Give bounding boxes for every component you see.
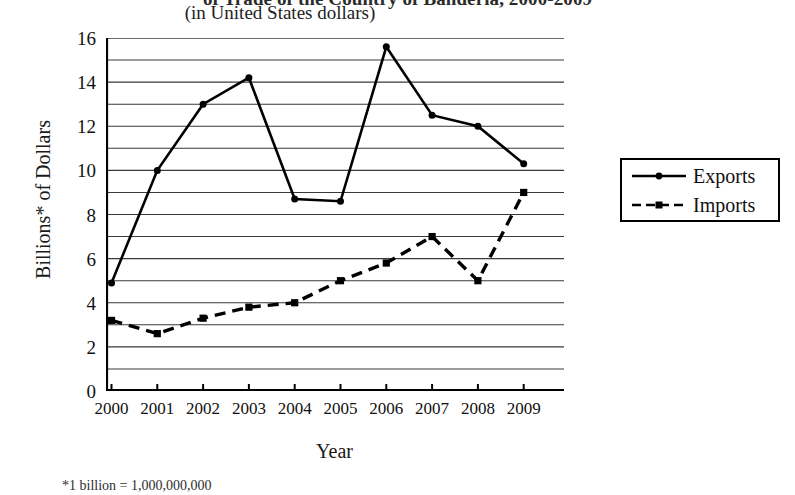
data-point-imports bbox=[474, 277, 481, 284]
data-point-exports bbox=[200, 101, 207, 108]
plot-svg bbox=[106, 38, 564, 391]
y-tick-label: 2 bbox=[62, 338, 96, 357]
data-point-exports bbox=[154, 167, 161, 174]
data-point-imports bbox=[428, 233, 435, 240]
data-point-exports bbox=[383, 43, 390, 50]
data-point-exports bbox=[291, 196, 298, 203]
data-point-exports bbox=[108, 279, 115, 286]
chart-footnote: *1 billion = 1,000,000,000 bbox=[62, 478, 211, 494]
data-point-exports bbox=[520, 160, 527, 167]
data-point-imports bbox=[245, 304, 252, 311]
legend-label-imports: Imports bbox=[693, 194, 755, 217]
series-line-imports bbox=[112, 192, 524, 333]
legend-sample-solid-line-icon bbox=[630, 166, 688, 186]
data-point-imports bbox=[108, 317, 115, 324]
x-tick-label: 2009 bbox=[494, 400, 554, 417]
y-tick-label: 10 bbox=[62, 161, 96, 180]
data-point-imports bbox=[383, 259, 390, 266]
chart-subtitle: (in United States dollars) bbox=[0, 2, 560, 24]
legend-label-exports: Exports bbox=[693, 165, 755, 188]
legend-item-exports: Exports bbox=[622, 161, 778, 191]
data-point-exports bbox=[474, 123, 481, 130]
data-point-imports bbox=[520, 189, 527, 196]
data-point-imports bbox=[291, 299, 298, 306]
legend-item-imports: Imports bbox=[622, 190, 778, 220]
data-point-imports bbox=[337, 277, 344, 284]
y-tick-label: 6 bbox=[62, 250, 96, 269]
y-tick-label: 14 bbox=[62, 73, 96, 92]
y-tick-label: 8 bbox=[62, 206, 96, 225]
y-tick-label: 4 bbox=[62, 294, 96, 313]
data-point-exports bbox=[245, 74, 252, 81]
data-point-exports bbox=[429, 112, 436, 119]
y-axis-title: Billions* of Dollars bbox=[32, 75, 55, 325]
y-tick-label: 16 bbox=[62, 29, 96, 48]
y-tick-label: 0 bbox=[62, 382, 96, 401]
data-point-imports bbox=[154, 330, 161, 337]
trade-line-chart-figure: of Trade of the Country of Banderia, 200… bbox=[0, 0, 795, 495]
chart-legend: Exports Imports bbox=[620, 158, 780, 222]
data-point-exports bbox=[337, 198, 344, 205]
x-axis-title: Year bbox=[88, 440, 581, 463]
data-point-imports bbox=[199, 315, 206, 322]
y-tick-label: 12 bbox=[62, 117, 96, 136]
plot-area bbox=[106, 38, 564, 391]
legend-sample-dashed-line-icon bbox=[630, 195, 688, 215]
